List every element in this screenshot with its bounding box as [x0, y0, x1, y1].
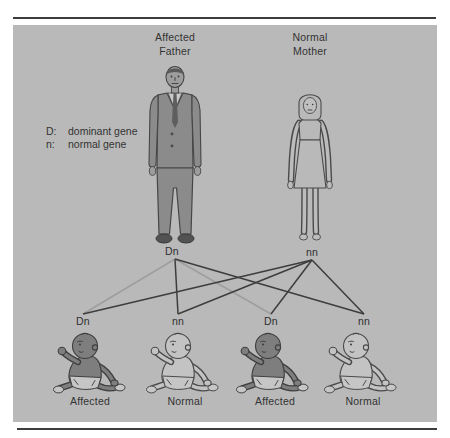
top-border-rule	[13, 17, 436, 19]
babies-layer	[13, 25, 437, 422]
baby-figure-1	[54, 333, 126, 393]
baby-figure-2	[147, 333, 219, 393]
baby-figure-3	[237, 333, 309, 393]
child-3-status-label: Affected	[235, 395, 315, 409]
page: { "parents": { "father": { "label_line1"…	[0, 0, 450, 438]
child-4-status-label: Normal	[323, 395, 403, 409]
diagram-panel: Affected Father Normal Mother D: dominan…	[13, 25, 437, 422]
bottom-border-rule	[17, 428, 437, 430]
child-2-status-label: Normal	[145, 395, 225, 409]
baby-figure-4	[325, 333, 397, 393]
child-1-status-label: Affected	[50, 395, 130, 409]
